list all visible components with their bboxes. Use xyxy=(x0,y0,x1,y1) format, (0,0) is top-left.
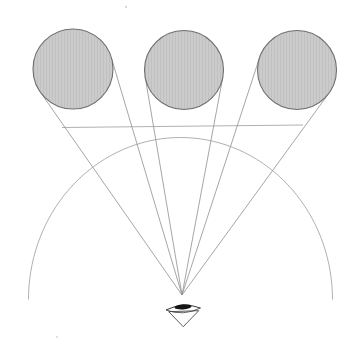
vision-arc xyxy=(29,138,333,300)
sight-line xyxy=(145,77,182,295)
sight-line xyxy=(182,93,329,295)
picture-plane-line xyxy=(62,125,303,128)
spheres xyxy=(33,29,337,110)
eye-icon xyxy=(166,304,201,327)
perspective-diagram xyxy=(0,0,360,354)
sphere-middle xyxy=(145,31,224,110)
sight-line xyxy=(40,92,182,295)
sphere-left xyxy=(33,29,113,109)
scan-speck xyxy=(56,336,58,338)
eye-pupil xyxy=(174,304,192,310)
diagram-canvas xyxy=(0,0,360,354)
sphere-right xyxy=(258,31,337,110)
sight-line xyxy=(182,77,223,295)
scan-speck xyxy=(125,6,127,8)
